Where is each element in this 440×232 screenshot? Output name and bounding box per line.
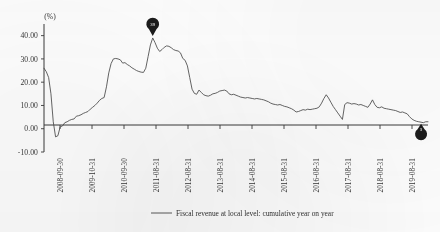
- x-tick-label: 2012-08-31: [185, 158, 193, 193]
- legend: Fiscal revenue at local level: cumulativ…: [151, 209, 334, 218]
- y-axis-unit-label: (%): [44, 12, 56, 21]
- peak-marker-pin: 39: [146, 18, 159, 36]
- y-axis: 40.0030.0020.0010.000.00-10.00: [18, 31, 44, 156]
- y-tick-label: -10.00: [18, 148, 38, 157]
- x-tick-label: 2014-08-31: [249, 158, 257, 193]
- x-axis-labels: 2008-09-302009-10-312010-09-302011-08-31…: [57, 158, 417, 193]
- line-chart: (%) 40.0030.0020.0010.000.00-10.00 2008-…: [0, 0, 440, 232]
- series-line-fiscal-revenue: [44, 38, 428, 137]
- x-axis-ticks: [60, 125, 412, 129]
- x-tick-label: 2019-08-31: [409, 158, 417, 193]
- x-tick-label: 2018-08-31: [377, 158, 385, 193]
- x-tick-label: 2016-08-31: [313, 158, 321, 193]
- chart-page: (%) 40.0030.0020.0010.000.00-10.00 2008-…: [0, 0, 440, 232]
- legend-label-fiscal-revenue: Fiscal revenue at local level: cumulativ…: [176, 209, 334, 218]
- x-tick-label: 2008-09-30: [57, 158, 65, 193]
- peak-marker-label: 39: [150, 22, 155, 27]
- y-tick-label: 40.00: [20, 31, 38, 40]
- x-tick-label: 2013-08-31: [217, 158, 225, 193]
- x-tick-label: 2011-08-31: [153, 158, 161, 193]
- y-tick-label: 0.00: [24, 124, 38, 133]
- y-tick-label: 20.00: [20, 78, 38, 87]
- x-tick-label: 2010-09-30: [121, 158, 129, 193]
- y-tick-label: 30.00: [20, 55, 38, 64]
- end-marker-pin: 3: [415, 124, 427, 140]
- x-tick-label: 2015-08-31: [281, 158, 289, 193]
- x-tick-label: 2009-10-31: [89, 158, 97, 193]
- y-tick-label: 10.00: [20, 101, 38, 110]
- x-tick-label: 2017-08-31: [345, 158, 353, 193]
